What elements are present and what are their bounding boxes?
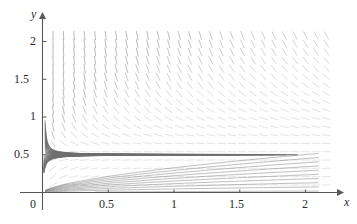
field-dash bbox=[269, 135, 278, 136]
field-dash bbox=[80, 142, 89, 145]
field-dash bbox=[228, 91, 235, 97]
field-dash bbox=[84, 73, 86, 82]
field-dash bbox=[291, 117, 300, 119]
field-dash bbox=[157, 56, 160, 64]
field-dash bbox=[175, 116, 183, 120]
field-dash bbox=[147, 39, 149, 48]
field-dash bbox=[261, 48, 266, 56]
field-dash bbox=[208, 73, 213, 80]
field-dash bbox=[187, 73, 192, 81]
field-dash bbox=[105, 39, 106, 48]
field-dash bbox=[282, 65, 288, 72]
field-dash bbox=[322, 126, 331, 128]
field-dash bbox=[134, 107, 140, 113]
field-dash bbox=[188, 40, 191, 49]
field-dash bbox=[146, 64, 149, 72]
field-dash bbox=[219, 56, 223, 64]
field-dash bbox=[104, 89, 107, 97]
field-dash bbox=[230, 56, 234, 64]
field-dash bbox=[103, 115, 109, 122]
field-dash bbox=[133, 168, 142, 169]
field-dash bbox=[313, 74, 320, 80]
field-dash bbox=[312, 83, 319, 88]
field-dash bbox=[135, 81, 139, 89]
field-dash bbox=[94, 89, 97, 98]
x-tick-label-2: 2 bbox=[302, 198, 308, 210]
field-dash bbox=[154, 168, 163, 169]
field-dash bbox=[126, 39, 128, 48]
field-dash bbox=[272, 48, 277, 56]
field-dash bbox=[207, 126, 216, 128]
field-dash bbox=[248, 143, 257, 144]
field-dash bbox=[189, 31, 192, 40]
field-dash bbox=[113, 115, 119, 121]
field-dash bbox=[238, 117, 246, 120]
field-dash bbox=[177, 65, 181, 73]
field-dash bbox=[50, 165, 57, 171]
plot-canvas bbox=[0, 0, 357, 224]
field-dash bbox=[217, 143, 226, 144]
field-dash bbox=[259, 135, 268, 136]
field-dash bbox=[186, 108, 194, 113]
field-dash bbox=[313, 65, 319, 71]
field-dash bbox=[280, 135, 289, 136]
field-dash bbox=[134, 116, 141, 121]
field-dash bbox=[239, 99, 247, 104]
field-dash bbox=[62, 114, 65, 123]
field-dash bbox=[323, 91, 331, 95]
field-dash bbox=[228, 126, 237, 128]
field-dash bbox=[115, 31, 116, 40]
field-dash bbox=[282, 48, 287, 56]
field-dash bbox=[52, 122, 54, 131]
field-dash bbox=[301, 135, 310, 136]
field-dash bbox=[270, 126, 279, 128]
field-dash bbox=[95, 31, 96, 40]
field-dash bbox=[112, 160, 121, 161]
field-dash bbox=[82, 115, 87, 123]
field-dash bbox=[175, 168, 184, 169]
field-dash bbox=[63, 64, 64, 73]
field-dash bbox=[59, 175, 67, 179]
field-dash bbox=[105, 48, 106, 57]
field-dash bbox=[293, 40, 298, 48]
field-dash bbox=[227, 143, 236, 144]
field-dash bbox=[291, 126, 300, 128]
field-dash bbox=[63, 56, 64, 65]
y-tick-label-1: 1 bbox=[30, 110, 36, 122]
field-dash bbox=[144, 116, 151, 121]
field-dash bbox=[280, 143, 289, 144]
field-dash bbox=[301, 143, 310, 144]
field-dash bbox=[50, 140, 55, 147]
y-tick-label-0_5: 0.5 bbox=[14, 148, 29, 160]
field-dash bbox=[157, 39, 159, 48]
field-dash bbox=[260, 100, 268, 104]
field-dash bbox=[136, 48, 138, 57]
field-dash bbox=[209, 48, 213, 56]
field-dash bbox=[102, 133, 110, 137]
field-dash bbox=[122, 168, 131, 169]
field-dash bbox=[186, 125, 195, 128]
field-dash bbox=[249, 91, 256, 96]
field-dash bbox=[271, 82, 278, 88]
field-dash bbox=[134, 98, 139, 105]
field-dash bbox=[136, 73, 139, 81]
field-dash bbox=[217, 108, 225, 112]
field-dash bbox=[124, 107, 130, 114]
field-dash bbox=[133, 134, 142, 137]
field-dash bbox=[238, 126, 247, 128]
field-dash bbox=[312, 117, 321, 119]
field-dash bbox=[144, 107, 151, 113]
field-dash bbox=[251, 40, 255, 48]
field-dash bbox=[291, 83, 298, 89]
field-dash bbox=[199, 48, 202, 56]
field-dash bbox=[167, 48, 170, 57]
field-dash bbox=[272, 40, 276, 48]
field-dash bbox=[115, 56, 117, 65]
x-tick-label-1: 1 bbox=[171, 198, 177, 210]
field-dash bbox=[280, 100, 288, 104]
field-dash bbox=[73, 81, 74, 90]
field-dash bbox=[229, 65, 234, 72]
field-dash bbox=[262, 31, 266, 39]
field-dash bbox=[59, 159, 68, 161]
field-dash bbox=[188, 48, 191, 56]
